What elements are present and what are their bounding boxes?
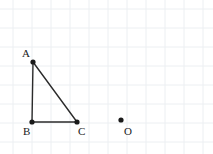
- point-label-C: C: [78, 126, 85, 137]
- geometry-figure: ABCO: [0, 0, 213, 154]
- point-O: [118, 117, 123, 122]
- point-B: [29, 119, 34, 124]
- point-label-A: A: [22, 48, 30, 59]
- shape-layer: [0, 0, 213, 154]
- point-C: [74, 119, 79, 124]
- point-A: [30, 59, 35, 64]
- segment-CA: [33, 62, 77, 122]
- point-label-O: O: [124, 126, 132, 137]
- segment-AB: [32, 62, 33, 122]
- point-label-B: B: [23, 126, 30, 137]
